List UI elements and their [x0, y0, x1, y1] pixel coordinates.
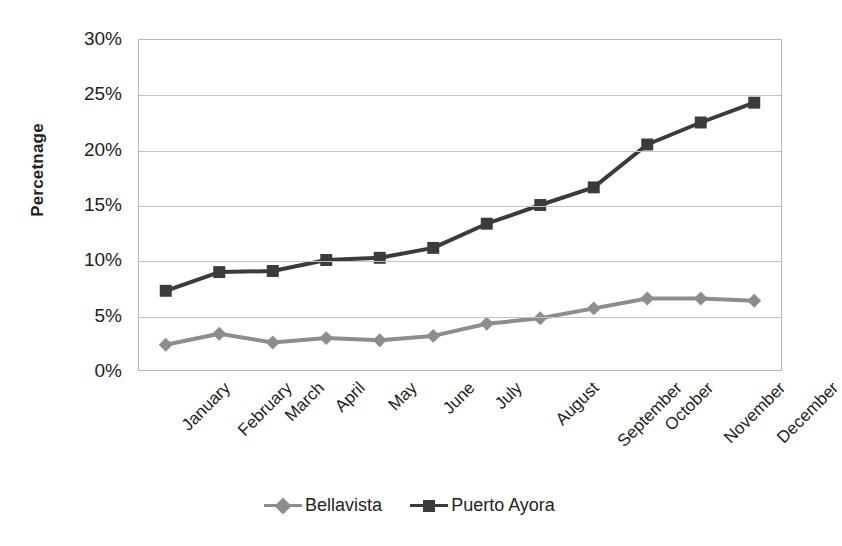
legend-swatch [410, 497, 448, 513]
x-axis-tick-label-text: January [179, 379, 234, 434]
legend-swatch [264, 497, 302, 513]
legend-item-puerto-ayora[interactable]: Puerto Ayora [410, 496, 555, 514]
data-point-diamond-marker [319, 331, 333, 345]
x-axis-tick-label-text: June [440, 379, 478, 417]
y-axis-tick-label: 15% [48, 195, 122, 214]
data-point-square-marker [427, 242, 439, 254]
data-point-square-marker [213, 266, 225, 278]
legend-diamond-marker-icon [275, 498, 292, 515]
data-point-square-marker [267, 265, 279, 277]
data-point-diamond-marker [694, 292, 708, 306]
data-point-square-marker [160, 285, 172, 297]
x-axis-tick-label: May [385, 379, 420, 414]
data-point-square-marker [534, 199, 546, 211]
y-axis-title: Percetnage [28, 80, 48, 260]
legend-item-bellavista[interactable]: Bellavista [264, 496, 382, 514]
x-axis-tick-label-text: August [552, 379, 601, 428]
gridline [139, 317, 781, 318]
plot-area [138, 39, 782, 371]
x-axis-tick-labels: JanuaryFebruaryMarchAprilMayJuneJulyAugu… [138, 371, 782, 481]
data-point-diamond-marker [747, 294, 761, 308]
data-point-diamond-marker [426, 329, 440, 343]
data-point-diamond-marker [159, 338, 173, 352]
series-line [166, 299, 755, 345]
data-point-square-marker [481, 218, 493, 230]
data-point-square-marker [641, 139, 653, 151]
data-point-square-marker [748, 97, 760, 109]
x-axis-tick-label-text: July [492, 379, 525, 412]
gridline [139, 95, 781, 96]
gridline [139, 206, 781, 207]
data-point-diamond-marker [373, 333, 387, 347]
data-point-diamond-marker [266, 336, 280, 350]
data-point-square-marker [320, 254, 332, 266]
series-layer [139, 40, 781, 370]
gridline [139, 261, 781, 262]
y-axis-tick-labels: 0%5%10%15%20%25%30% [48, 0, 122, 546]
x-axis-tick-label: April [332, 379, 368, 415]
y-axis-tick-label: 5% [48, 306, 122, 325]
y-axis-tick-label: 10% [48, 250, 122, 269]
y-axis-tick-label: 30% [48, 29, 122, 48]
series-bellavista [159, 292, 761, 352]
data-point-square-marker [695, 117, 707, 129]
legend-label: Bellavista [305, 496, 382, 514]
x-axis-tick-label: August [552, 379, 601, 428]
x-axis-tick-label: July [492, 379, 525, 412]
data-point-diamond-marker [640, 292, 654, 306]
x-axis-tick-label: June [440, 379, 478, 417]
x-axis-tick-label: January [179, 379, 234, 434]
x-axis-tick-label-text: April [332, 379, 368, 415]
x-axis-tick-label-text: May [385, 379, 420, 414]
data-point-diamond-marker [480, 317, 494, 331]
y-axis-tick-label: 0% [48, 361, 122, 380]
series-puerto-ayora [160, 97, 760, 297]
y-axis-tick-label: 25% [48, 84, 122, 103]
gridline [139, 151, 781, 152]
data-point-diamond-marker [587, 301, 601, 315]
legend-square-marker-icon [423, 500, 435, 512]
data-point-square-marker [588, 181, 600, 193]
legend-label: Puerto Ayora [451, 496, 555, 514]
data-point-diamond-marker [533, 311, 547, 325]
series-line [166, 103, 755, 291]
chart-legend: BellavistaPuerto Ayora [0, 496, 819, 514]
data-point-diamond-marker [212, 327, 226, 341]
y-axis-tick-label: 20% [48, 140, 122, 159]
